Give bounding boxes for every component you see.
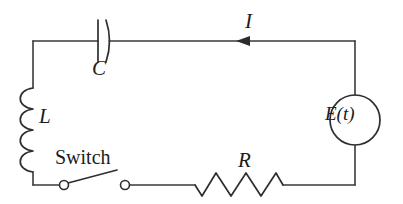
switch-terminal-left[interactable] (60, 181, 69, 190)
circuit-schematic-svg (0, 0, 403, 204)
resistor-label: R (238, 150, 251, 171)
switch-terminal-right[interactable] (121, 181, 130, 190)
inductor-coil-symbol (20, 88, 33, 172)
current-arrow-left-icon (236, 36, 250, 46)
capacitor-label: C (92, 58, 106, 79)
circuit-diagram: C L I R Switch E(t) (0, 0, 403, 204)
resistor-zigzag-symbol (195, 173, 283, 196)
inductor-label: L (39, 106, 51, 127)
switch-lever-blade[interactable] (68, 170, 117, 183)
voltage-source-label: E(t) (325, 104, 355, 123)
current-label: I (245, 11, 252, 32)
switch-label: Switch (55, 147, 111, 167)
